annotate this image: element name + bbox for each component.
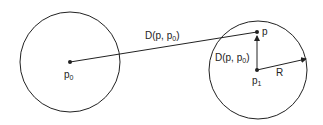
point-p1-dot xyxy=(255,68,259,72)
radius-label: R xyxy=(276,67,283,78)
distance-main-label: D(p, p0) xyxy=(145,30,179,42)
point-p-label: p xyxy=(262,26,268,37)
point-p0-label: p0 xyxy=(64,69,74,81)
distance-diagram: p0 p p1 D(p, p0) D(p, p0) R xyxy=(0,0,323,125)
point-p1-label: p1 xyxy=(252,75,262,87)
distance-local-label: D(p, p0) xyxy=(215,52,249,64)
point-p0-dot xyxy=(68,60,72,64)
point-p-dot xyxy=(255,30,259,34)
